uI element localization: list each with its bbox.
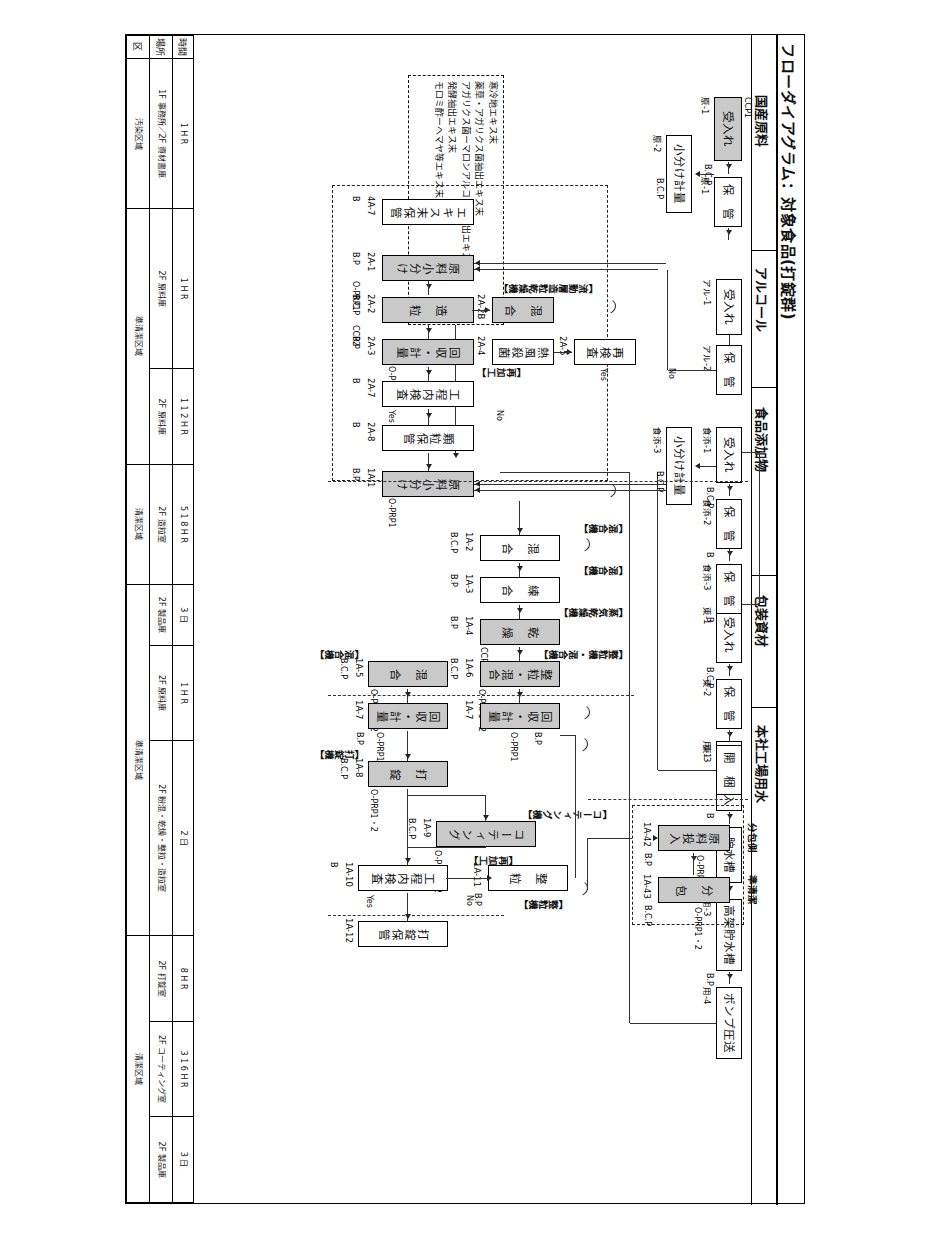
ccp-1a-42: B.P (643, 853, 652, 866)
box-2a-raw-portion[interactable]: 原料小分け (382, 255, 474, 281)
code-1a-2: 1A-2 (464, 532, 474, 552)
box-add-portioning[interactable]: 小分け計量 (666, 427, 692, 505)
box-2a-granule-store[interactable]: 顆粒保管 (382, 425, 474, 451)
cell-place-8: 2F コーティング室 (150, 1021, 173, 1117)
box-1a-feed[interactable]: 原料投入 (658, 825, 730, 851)
box-add-store-2[interactable]: 保 管 (716, 564, 742, 614)
box-1a-mix2[interactable]: 混 合 (368, 661, 448, 687)
code-1a-43: 1A-43 (642, 874, 652, 899)
box-raw-intake[interactable]: 受入れ (714, 97, 742, 161)
cell-time-2: 1 1 2 H R (173, 369, 194, 465)
zone-boundary-4 (328, 915, 504, 916)
code-add-store-1: 食添-2 (702, 499, 714, 525)
code-2a-4: 2A-4 (476, 336, 486, 356)
line-water-3 (729, 972, 730, 984)
ccp-1a-3: B.P (449, 574, 458, 587)
arrow-size-up (487, 875, 492, 881)
box-1a-mix1[interactable]: 混 合 (480, 535, 560, 561)
line-size-back (575, 735, 576, 878)
box-add-intake[interactable]: 受入れ (716, 427, 742, 483)
box-1a-coating[interactable]: コーティング (436, 821, 536, 847)
box-1a-raw-portion[interactable]: 原料小分け (382, 471, 474, 497)
box-1a-tablet[interactable]: 打 錠 (368, 761, 448, 787)
ccp-raw-ccp1: CCP1 (743, 97, 752, 118)
line-feed-3 (474, 263, 666, 264)
label-2a-no: No (667, 368, 676, 379)
box-2a-extract-store[interactable]: エキス末保管 (382, 199, 474, 225)
line-coat-out (408, 847, 486, 848)
line-bunpou-up (588, 838, 632, 839)
arrow-raw-2 (726, 230, 732, 235)
zone-time-table: 時間 1 H R 1 H R 1 1 2 H R 5 1 8 H R 3 日 1… (126, 35, 194, 1203)
line-2a-2b (472, 310, 490, 311)
box-raw-portioning[interactable]: 小分け計量 (666, 135, 692, 213)
note-1a-coater: 【コーティング機】 (522, 807, 612, 821)
arrow-pack-1 (727, 666, 733, 671)
box-2a-recheck[interactable]: 再検査 (574, 339, 636, 365)
cell-time-5: 1 H R (173, 645, 194, 741)
line-feed-4 (474, 269, 658, 270)
arrow-2a-5b (426, 413, 432, 418)
box-add-store-1[interactable]: 保 管 (716, 499, 742, 549)
ccp-water-3: B.P (705, 973, 714, 986)
box-water-pump[interactable]: ポンプ圧送 (716, 987, 742, 1059)
cell-place-4: 2F 製品庫 (150, 585, 173, 646)
box-pack-store[interactable]: 保 管 (716, 679, 742, 729)
ccp2-1a-7b: O-PRP1 (375, 732, 384, 762)
cell-place-3: 2F 造粒室 (150, 464, 173, 584)
line-feed-1 (474, 484, 666, 485)
box-raw-store[interactable]: 保 管 (714, 177, 742, 227)
box-1a-sizemix[interactable]: 整粒・混合 (480, 661, 560, 687)
box-alc-store[interactable]: 保 管 (716, 345, 742, 395)
cell-zone-1: 準清潔区域 (127, 209, 150, 465)
code-2a-2: 2A-2 (366, 294, 376, 314)
ccp-2a-2: B.C.P (351, 294, 360, 315)
code-alc-intake: アル-1 (702, 279, 714, 305)
box-2a-recover[interactable]: 回収・計量 (382, 339, 474, 365)
ccp-2a-7: B (351, 378, 360, 384)
line-add-2 (729, 549, 730, 561)
ccp-1a-2: B.C.P (449, 532, 458, 553)
box-1a-knead[interactable]: 練 合 (480, 577, 560, 603)
code-2a-1: 2A-1 (366, 252, 376, 272)
line-2a-5 (554, 352, 572, 353)
box-alc-intake[interactable]: 受入れ (716, 279, 742, 335)
box-2a-inprocess[interactable]: 工程内検査 (382, 381, 474, 407)
note-1a-mixer3: 【混合機】 (314, 647, 364, 661)
arrow-2a-4 (426, 370, 432, 375)
box-1a-sachet[interactable]: 分 包 (658, 877, 730, 903)
box-1a-inprocess[interactable]: 工程内検査 (358, 865, 448, 891)
lane-label-raw: 国産原料 (753, 95, 772, 147)
code-1a-3: 1A-3 (464, 574, 474, 594)
box-1a-dry[interactable]: 乾 燥 (480, 619, 560, 645)
lane-sep-2 (752, 387, 778, 388)
cell-zone-0: 汚染区域 (127, 58, 150, 208)
box-pack-unbox[interactable]: 開 梱 (716, 745, 742, 795)
box-1a-recover2[interactable]: 回収・計量 (368, 703, 448, 729)
cell-time-0: 1 H R (173, 58, 194, 208)
box-2a-granulate[interactable]: 造 粒 (382, 297, 474, 323)
code-1a-10: 1A-10 (344, 862, 354, 887)
arrow-water-3 (727, 974, 733, 979)
arc-3 (578, 535, 590, 553)
code-raw-store: 原-1 (700, 177, 712, 194)
box-pack-intake[interactable]: 受入れ (716, 607, 742, 663)
arrow-1a-2 (517, 608, 523, 613)
box-1a-tablet-store[interactable]: 打錠保管 (358, 921, 448, 947)
note-1a-mixer1: 【混合機】 (578, 521, 628, 535)
line-pack-across (657, 472, 658, 770)
box-2a-mix[interactable]: 混 合 (492, 297, 554, 323)
lane-header-rule (776, 35, 778, 1205)
line-water-down (630, 1023, 716, 1024)
box-1a-sizing[interactable]: 整 粒 (488, 865, 568, 891)
cell-place-7: 2F 打錠室 (150, 936, 173, 1022)
table-row-zone: 区 汚染区域 準清潔区域 清潔区域 準清潔区域 清潔区域 (127, 36, 150, 1203)
arrow-2a-1 (426, 284, 432, 289)
box-1a-recover1[interactable]: 回収・計量 (480, 703, 560, 729)
line-alc-1 (729, 334, 730, 346)
cell-zone-7: 清潔区域 (127, 936, 150, 1203)
line-add-loop-r (742, 604, 760, 605)
box-2a-hotair[interactable]: 熱風殺菌 (492, 339, 554, 365)
arrow-1a-1 (517, 566, 523, 571)
ccp-1a-9: B.C.P (407, 818, 416, 839)
